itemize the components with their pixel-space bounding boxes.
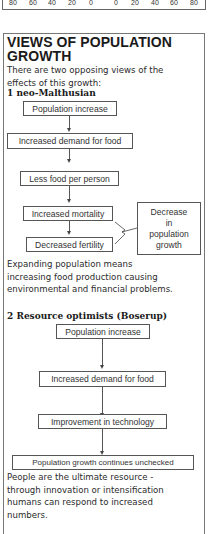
connector [69,186,70,200]
arrow-down-icon [67,231,71,235]
section-title: VIEWS OF POPULATION GROWTH [7,35,172,63]
text-line: in [166,218,173,229]
text-line: growth [156,240,182,251]
text-line: increasing food production causing [7,271,205,284]
axis-tick: 60 [29,0,37,6]
axis-tick: 40 [151,0,159,6]
connector [102,339,103,366]
arrow-down-icon [67,159,71,163]
text-line: Decrease [151,207,188,218]
axis-tick: 20 [131,0,139,6]
arrow-down-icon [67,128,71,132]
intro-text: There are two opposing views of the effe… [7,64,205,89]
text-line: population [149,229,189,240]
flow-box-population-increase: Population increase [23,101,117,116]
view2-summary: People are the ultimate resource - throu… [7,471,205,521]
axis-tick: 80 [190,0,198,6]
title-line: VIEWS OF POPULATION [7,35,172,49]
axis-tick: 0 [114,0,118,6]
flow-box-growth-continues: Population growth continues unchecked [12,455,194,470]
view1-summary: Expanding population means increasing fo… [7,258,205,296]
text-line: numbers. [7,509,205,522]
flow-box-increased-demand-2: Increased demand for food [39,371,166,387]
view2-heading: 2 Resource optimists (Boserup) [7,311,167,321]
text-line: People are the ultimate resource - [7,471,205,484]
axis-tick: 20 [68,0,76,6]
axis-tick: 40 [48,0,56,6]
flow-box-increased-demand: Increased demand for food [7,133,133,149]
flow-box-population-increase-2: Population increase [56,324,150,339]
flow-box-decrease-growth: Decrease in population growth [137,202,201,255]
axis-tick: 80 [9,0,17,6]
flow-box-increased-mortality: Increased mortality [23,206,113,221]
connector [102,387,103,414]
view1-heading: 1 neo-Malthusian [7,88,96,98]
text-line: through innovation or intensification [7,484,205,497]
text-line: environmental and financial problems. [7,283,205,296]
arrow-down-icon [100,365,104,369]
axis-tick: 0 [89,0,93,6]
flow-box-improvement-technology: Improvement in technology [38,414,167,429]
text-line: humans can respond to increased [7,496,205,509]
arrow-down-icon [67,199,71,203]
text-line: There are two opposing views of the [7,64,205,77]
text-line: Expanding population means [7,258,205,271]
flow-box-decreased-fertility: Decreased fertility [26,237,113,252]
title-line: GROWTH [7,49,172,63]
axis-tick: 60 [170,0,178,6]
pyramid-axis-strip: 80 60 40 20 0 0 20 40 60 80 [2,0,206,10]
flow-box-less-food: Less food per person [20,171,119,186]
merge-arrow-icon [113,218,139,248]
connector [102,429,103,452]
